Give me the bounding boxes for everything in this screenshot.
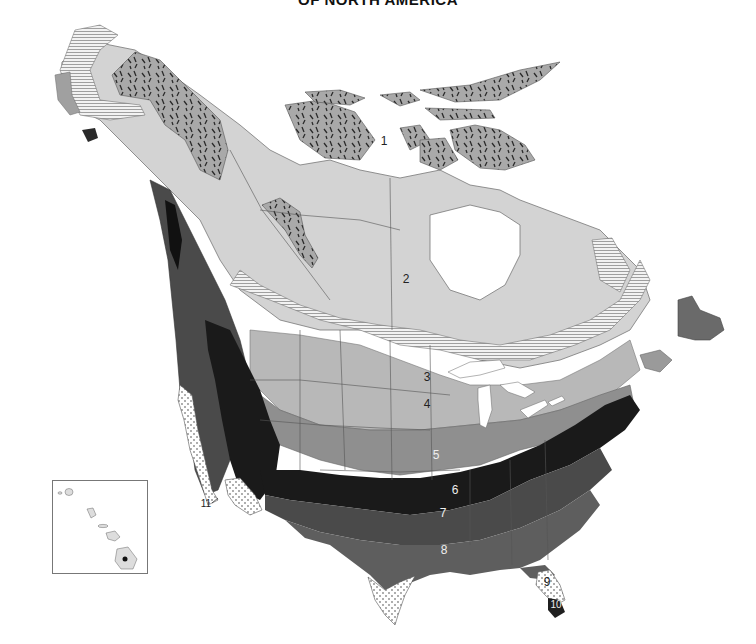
island-niihau — [58, 492, 62, 494]
zone-label-6: 6 — [452, 483, 459, 497]
zone-label-9: 9 — [544, 575, 551, 589]
zone-label-4: 4 — [424, 397, 431, 411]
hawaii-inset — [52, 480, 148, 574]
zone-label-3: 3 — [424, 370, 431, 384]
hawaii-islands — [53, 481, 147, 573]
maritimes — [640, 350, 672, 372]
island-molokai — [98, 524, 108, 527]
zone-label-10: 10 — [550, 599, 562, 610]
island-oahu — [87, 508, 96, 518]
newfoundland — [678, 296, 724, 340]
island-kauai — [65, 489, 73, 496]
zone-10-alaska-coast — [82, 128, 98, 142]
zone-label-8: 8 — [441, 543, 448, 557]
zone-label-5: 5 — [433, 448, 440, 462]
zone-label-2: 2 — [403, 272, 410, 286]
zone-label-7: 7 — [440, 506, 447, 520]
zone-label-11: 11 — [201, 498, 212, 509]
zone-1-arctic-islands — [285, 62, 560, 170]
zone-label-1: 1 — [381, 134, 388, 148]
big-island-summit-zone — [123, 557, 128, 562]
island-maui — [106, 531, 120, 541]
